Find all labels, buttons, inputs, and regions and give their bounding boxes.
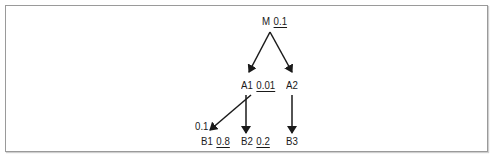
- edge-m-a1: [249, 32, 270, 72]
- node-b1-label: B1: [201, 135, 213, 147]
- node-m: M0.1: [262, 15, 287, 27]
- node-b3-label: B3: [286, 135, 298, 147]
- node-b2: B20.2: [241, 135, 270, 147]
- edge-a1-b1: [210, 95, 251, 130]
- node-a2: A2: [286, 79, 298, 91]
- node-m-value: 0.1: [274, 15, 287, 27]
- node-m-label: M: [262, 15, 270, 27]
- node-b1: B10.8: [201, 135, 230, 147]
- node-b1-value: 0.8: [216, 135, 229, 147]
- edge-label-a1-b1: 0.1: [195, 120, 208, 132]
- node-b2-value: 0.2: [256, 135, 269, 147]
- node-b3: B3: [286, 135, 298, 147]
- node-b2-label: B2: [241, 135, 253, 147]
- node-a1-label: A1: [241, 79, 253, 91]
- edge-m-a2: [270, 32, 292, 72]
- node-a1: A10.01: [241, 79, 275, 91]
- node-a2-label: A2: [286, 79, 298, 91]
- node-a1-value: 0.01: [256, 79, 275, 91]
